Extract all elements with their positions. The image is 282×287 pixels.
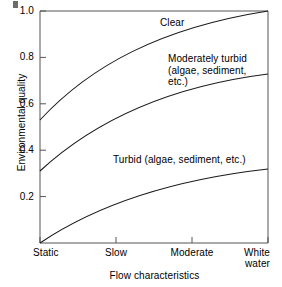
- x-tick-label-moderate: Moderate: [162, 247, 222, 258]
- x-tick-label-white-water: White water: [230, 247, 270, 269]
- plot-frame: [40, 11, 268, 243]
- x-axis-ticks: [40, 237, 268, 243]
- plot-canvas: [0, 0, 282, 287]
- curve-label-turbid: Turbid (algae, sediment, etc.): [113, 154, 246, 166]
- x-axis-title: Flow characteristics: [40, 270, 269, 281]
- chart-figure: 1.0 0.8 0.6 0.4 0.2 Static Slow Moderate…: [0, 0, 282, 287]
- x-tick-label-slow: Slow: [86, 247, 146, 258]
- curve-turbid: [40, 169, 268, 243]
- x-tick-label-static: Static: [33, 247, 59, 258]
- y-tick-label-1: 1.0: [8, 6, 34, 16]
- y-axis-title: Environmental quality: [16, 38, 27, 208]
- curve-label-clear: Clear: [160, 17, 184, 29]
- curve-label-moderately-turbid: Moderately turbid (algae, sediment, etc.…: [168, 53, 247, 88]
